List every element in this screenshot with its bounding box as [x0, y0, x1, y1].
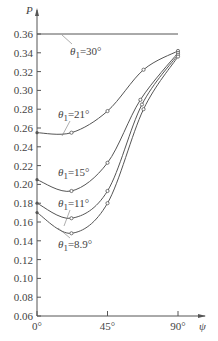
- y-tick-label: 0.36: [14, 28, 34, 40]
- y-tick-label: 0.08: [14, 291, 34, 303]
- y-tick-label: 0.24: [14, 141, 34, 153]
- data-point: [35, 211, 38, 214]
- x-tick-label: 90°: [170, 320, 185, 332]
- series-line: [37, 55, 178, 219]
- y-tick-label: 0.26: [14, 122, 34, 134]
- y-tick-label: 0.12: [14, 254, 33, 266]
- data-point: [140, 103, 143, 106]
- series-label: θ1=8.9°: [58, 238, 92, 253]
- y-tick-label: 0.28: [14, 103, 34, 115]
- x-axis-label: ψ: [199, 320, 206, 332]
- data-point: [70, 217, 73, 220]
- data-point: [106, 189, 109, 192]
- data-point: [70, 131, 73, 134]
- y-axis-arrow-icon: [35, 8, 39, 16]
- series-label: θ1=30°: [70, 45, 102, 60]
- line-chart: 0.060.080.100.120.140.160.180.200.220.24…: [0, 0, 218, 341]
- y-tick-label: 0.06: [14, 310, 34, 322]
- y-axis-label: P: [25, 4, 33, 16]
- x-tick-label: 45°: [100, 320, 115, 332]
- data-point: [70, 189, 73, 192]
- data-point: [35, 202, 38, 205]
- series-line: [37, 51, 178, 134]
- y-tick-label: 0.14: [14, 235, 34, 247]
- data-point: [106, 161, 109, 164]
- data-point: [70, 232, 73, 235]
- data-point: [142, 108, 145, 111]
- y-tick-label: 0.20: [14, 178, 34, 190]
- label-leader-line: [62, 35, 72, 44]
- data-point: [35, 178, 38, 181]
- y-tick-label: 0.34: [14, 47, 34, 59]
- data-point: [106, 109, 109, 112]
- y-tick-label: 0.32: [14, 66, 33, 78]
- data-point: [142, 68, 145, 71]
- x-axis-arrow-icon: [198, 314, 206, 318]
- data-point: [106, 202, 109, 205]
- y-tick-label: 0.16: [14, 216, 34, 228]
- data-point: [139, 98, 142, 101]
- y-tick-label: 0.30: [14, 84, 34, 96]
- y-tick-label: 0.10: [14, 272, 34, 284]
- y-tick-label: 0.18: [14, 197, 34, 209]
- y-tick-label: 0.22: [14, 160, 33, 172]
- data-point: [176, 55, 179, 58]
- series-label: θ1=15°: [58, 166, 90, 181]
- series-label: θ1=21°: [58, 108, 90, 123]
- series-label: θ1=11°: [58, 197, 89, 212]
- data-point: [35, 131, 38, 134]
- x-tick-label: 0°: [32, 320, 42, 332]
